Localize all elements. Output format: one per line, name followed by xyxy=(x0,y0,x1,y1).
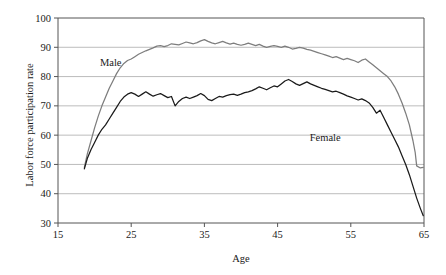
y-tick-label-70: 70 xyxy=(41,100,52,111)
y-tick-label-50: 50 xyxy=(41,159,52,170)
y-tick-label-100: 100 xyxy=(35,13,51,24)
y-tick-label-30: 30 xyxy=(41,218,52,229)
labor-force-participation-chart: 30405060708090100 152535455565 MaleFemal… xyxy=(0,0,446,275)
x-tick-label-65: 65 xyxy=(419,229,430,240)
y-tick-label-60: 60 xyxy=(41,130,52,141)
x-tick-label-35: 35 xyxy=(199,229,210,240)
chart-container: 30405060708090100 152535455565 MaleFemal… xyxy=(0,0,446,275)
y-axis-title: Labor force participation rate xyxy=(24,63,35,187)
x-axis-title: Age xyxy=(232,253,250,264)
x-tick-label-55: 55 xyxy=(346,229,357,240)
y-tick-label-40: 40 xyxy=(41,188,52,199)
y-tick-label-90: 90 xyxy=(41,42,52,53)
series-annotation-male: Male xyxy=(100,57,122,68)
y-tick-label-80: 80 xyxy=(41,71,52,82)
x-tick-label-45: 45 xyxy=(272,229,283,240)
x-tick-label-25: 25 xyxy=(126,229,137,240)
series-annotation-female: Female xyxy=(310,132,341,143)
x-tick-label-15: 15 xyxy=(53,229,64,240)
